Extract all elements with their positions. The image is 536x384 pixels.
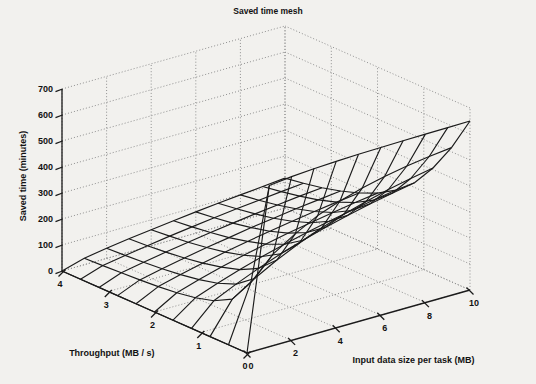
svg-text:600: 600: [38, 110, 53, 120]
svg-text:300: 300: [38, 188, 53, 198]
svg-text:200: 200: [38, 214, 53, 224]
svg-text:4: 4: [57, 279, 62, 289]
svg-text:0: 0: [248, 361, 253, 371]
svg-text:4: 4: [338, 336, 343, 346]
svg-text:0: 0: [48, 266, 53, 276]
chart-title: Saved time mesh: [233, 6, 302, 16]
svg-text:3: 3: [104, 300, 109, 310]
x-axis-label: Throughput (MB / s): [69, 348, 154, 358]
svg-text:400: 400: [38, 162, 53, 172]
svg-text:100: 100: [38, 240, 53, 250]
svg-text:1: 1: [196, 341, 201, 351]
mesh-figure: 0100200300400500600700012340246810 Saved…: [0, 0, 536, 384]
svg-text:2: 2: [150, 320, 155, 330]
svg-text:0: 0: [242, 361, 247, 371]
z-axis-label: Saved time (minutes): [18, 131, 28, 222]
svg-text:6: 6: [382, 323, 387, 333]
svg-text:10: 10: [469, 298, 479, 308]
svg-text:700: 700: [38, 84, 53, 94]
svg-text:8: 8: [427, 311, 432, 321]
svg-text:500: 500: [38, 136, 53, 146]
svg-text:2: 2: [293, 348, 298, 358]
y-axis-label: Input data size per task (MB): [352, 355, 474, 365]
